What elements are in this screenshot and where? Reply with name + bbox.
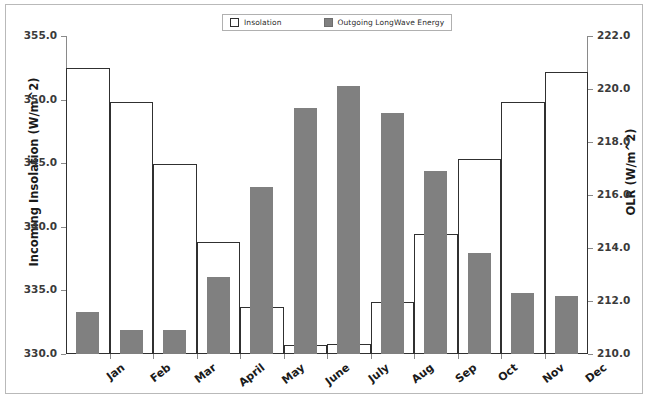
x-axis-tick [284,354,285,359]
plot-area: 330.0335.0340.0345.0350.0355.0210.0212.0… [66,36,588,354]
bar-olr-may[interactable] [250,187,273,354]
y-axis-right-tick-label: 214.0 [597,241,630,253]
chart-frame: Insolation Outgoing LongWave Energy Inco… [5,4,643,394]
x-axis-label-july: July [366,361,392,385]
x-axis-tick [371,354,372,359]
bar-olr-june[interactable] [294,108,317,354]
y-axis-left-title: Incoming Insolation (W/m^2) [27,52,41,292]
x-axis-tick [501,354,502,359]
x-axis-label-mar: Mar [192,361,219,386]
x-axis-tick [327,354,328,359]
bar-olr-july[interactable] [337,86,360,354]
bar-olr-jan[interactable] [76,312,99,354]
bar-insolation-feb[interactable] [110,102,154,354]
legend-label-outgoing-longwave-energy: Outgoing LongWave Energy [338,18,445,27]
y-axis-right-tick-label: 216.0 [597,188,630,200]
y-axis-right-tick [588,89,593,90]
x-axis-label-feb: Feb [148,361,174,385]
x-axis-tick [240,354,241,359]
x-axis-tick [414,354,415,359]
chart-legend: Insolation Outgoing LongWave Energy [222,14,452,31]
y-axis-right-tick [588,36,593,37]
y-axis-left-tick-label: 355.0 [24,29,57,41]
x-axis-label-april: April [236,361,267,389]
x-axis-label-oct: Oct [496,361,521,384]
y-axis-left-tick-label: 335.0 [24,283,57,295]
x-axis-label-nov: Nov [540,361,567,386]
open-square-swatch-icon [230,18,239,27]
bar-olr-sep[interactable] [424,171,447,354]
x-axis-tick [153,354,154,359]
y-axis-right-tick [588,354,593,355]
y-axis-right-tick [588,248,593,249]
y-axis-right-tick-label: 222.0 [597,29,630,41]
bar-olr-aug[interactable] [381,113,404,354]
y-axis-left-tick [61,36,66,37]
legend-entry-outgoing-longwave-energy[interactable]: Outgoing LongWave Energy [324,18,445,27]
x-axis-tick [110,354,111,359]
x-axis-label-dec: Dec [583,361,609,385]
y-axis-left-tick-label: 345.0 [24,156,57,168]
y-axis-right-tick-label: 210.0 [597,347,630,359]
bar-olr-oct[interactable] [468,253,491,354]
filled-square-swatch-icon [324,18,333,27]
bar-olr-feb[interactable] [120,330,143,354]
y-axis-right-tick [588,195,593,196]
y-axis-left-tick-label: 350.0 [24,93,57,105]
x-axis-tick [458,354,459,359]
x-axis-label-june: June [323,361,352,388]
bar-insolation-mar[interactable] [153,164,197,354]
legend-label-insolation: Insolation [244,18,282,27]
bar-olr-nov[interactable] [511,293,534,354]
x-axis-label-jan: Jan [104,361,127,383]
x-axis-label-may: May [279,361,307,387]
legend-entry-insolation[interactable]: Insolation [230,18,282,27]
y-axis-right-tick [588,301,593,302]
y-axis-left-tick-label: 330.0 [24,347,57,359]
x-axis-label-sep: Sep [453,361,479,386]
y-axis-right-tick-label: 218.0 [597,135,630,147]
x-axis-tick [197,354,198,359]
x-axis-label-aug: Aug [409,361,436,386]
bar-olr-mar[interactable] [163,330,186,354]
bar-olr-april[interactable] [207,277,230,354]
y-axis-right-tick-label: 220.0 [597,82,630,94]
y-axis-left-tick-label: 340.0 [24,220,57,232]
bar-olr-dec[interactable] [555,296,578,354]
x-axis-tick [545,354,546,359]
y-axis-right-tick [588,142,593,143]
y-axis-right-tick-label: 212.0 [597,294,630,306]
y-axis-left-tick [61,354,66,355]
